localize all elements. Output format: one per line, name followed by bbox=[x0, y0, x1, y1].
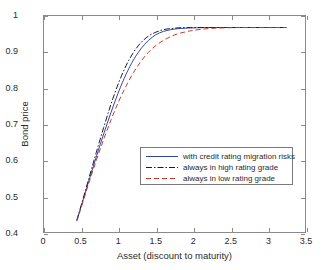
x-tick-mark bbox=[119, 228, 120, 232]
x-tick-label: 0.5 bbox=[74, 236, 87, 246]
y-tick-mark bbox=[44, 234, 48, 235]
x-tick-mark-top bbox=[119, 16, 120, 20]
y-tick-mark bbox=[44, 198, 48, 199]
y-tick-mark-right bbox=[301, 198, 305, 199]
x-tick-mark bbox=[194, 228, 195, 232]
y-tick-label: 0.5 bbox=[5, 192, 18, 202]
legend-sample-line-1 bbox=[145, 163, 179, 172]
x-tick-label: 1 bbox=[116, 236, 121, 246]
x-tick-mark-top bbox=[194, 16, 195, 20]
y-tick-mark bbox=[44, 16, 48, 17]
x-tick-mark-top bbox=[307, 16, 308, 20]
y-tick-mark-right bbox=[301, 125, 305, 126]
series-line-0 bbox=[77, 27, 287, 220]
y-tick-label: 0.8 bbox=[5, 83, 18, 93]
y-tick-mark-right bbox=[301, 161, 305, 162]
y-tick-label: 1 bbox=[13, 10, 18, 20]
legend-item: with credit rating migration risks bbox=[145, 151, 288, 162]
y-tick-label: 0.4 bbox=[5, 228, 18, 238]
legend-item: always in low rating grade bbox=[145, 173, 288, 184]
y-tick-label: 0.7 bbox=[5, 119, 18, 129]
y-tick-mark bbox=[44, 52, 48, 53]
x-axis-label: Asset (discount to maturity) bbox=[43, 250, 306, 261]
series-line-2 bbox=[77, 27, 287, 221]
bond-price-chart-figure: 00.511.522.533.5 0.40.50.60.70.80.91 Ass… bbox=[0, 0, 328, 270]
y-tick-mark-right bbox=[301, 234, 305, 235]
legend-label: always in low rating grade bbox=[183, 174, 275, 183]
chart-legend: with credit rating migration risks alway… bbox=[140, 147, 293, 185]
legend-sample-line-2 bbox=[145, 174, 179, 183]
y-axis-label: Bond price bbox=[19, 101, 30, 146]
x-tick-mark bbox=[157, 228, 158, 232]
x-tick-mark bbox=[44, 228, 45, 232]
y-tick-label: 0.9 bbox=[5, 46, 18, 56]
y-tick-mark bbox=[44, 161, 48, 162]
series-line-1 bbox=[77, 27, 287, 220]
y-tick-mark-right bbox=[301, 16, 305, 17]
x-tick-label: 2 bbox=[191, 236, 196, 246]
curves-svg bbox=[44, 16, 305, 232]
x-tick-label: 0 bbox=[40, 236, 45, 246]
x-tick-label: 2.5 bbox=[225, 236, 238, 246]
x-tick-mark bbox=[269, 228, 270, 232]
legend-label: always in high rating grade bbox=[183, 163, 278, 172]
x-tick-mark-top bbox=[157, 16, 158, 20]
y-tick-mark-right bbox=[301, 89, 305, 90]
x-tick-mark bbox=[232, 228, 233, 232]
x-tick-mark-top bbox=[82, 16, 83, 20]
x-tick-mark-top bbox=[269, 16, 270, 20]
x-tick-mark-top bbox=[232, 16, 233, 20]
x-tick-mark bbox=[307, 228, 308, 232]
y-tick-mark bbox=[44, 89, 48, 90]
x-tick-mark bbox=[82, 228, 83, 232]
x-tick-label: 3 bbox=[266, 236, 271, 246]
legend-sample-line-0 bbox=[145, 152, 179, 161]
plot-area bbox=[43, 15, 306, 233]
y-tick-mark bbox=[44, 125, 48, 126]
x-tick-label: 3.5 bbox=[300, 236, 313, 246]
legend-label: with credit rating migration risks bbox=[183, 152, 295, 161]
y-tick-mark-right bbox=[301, 52, 305, 53]
y-tick-label: 0.6 bbox=[5, 155, 18, 165]
x-tick-label: 1.5 bbox=[149, 236, 162, 246]
legend-item: always in high rating grade bbox=[145, 162, 288, 173]
